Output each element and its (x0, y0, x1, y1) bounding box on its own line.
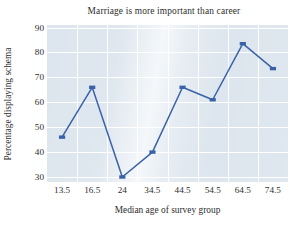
data-point-marker (179, 86, 185, 89)
data-point-marker (89, 86, 95, 89)
chart-title: Marriage is more important than career (38, 6, 290, 16)
chart-figure: Marriage is more important than career P… (0, 0, 303, 232)
y-tick-label: 50 (4, 122, 44, 132)
y-tick-label: 40 (4, 147, 44, 157)
x-tick-label: 74.5 (253, 185, 293, 195)
y-tick-label: 80 (4, 47, 44, 57)
y-tick-label: 90 (4, 23, 44, 33)
data-point-marker (270, 67, 276, 70)
y-tick-label: 60 (4, 97, 44, 107)
data-point-marker (149, 150, 155, 153)
data-line (62, 44, 273, 177)
data-point-marker (240, 42, 246, 45)
x-axis-label: Median age of survey group (47, 205, 288, 215)
y-tick-label: 70 (4, 72, 44, 82)
y-axis-tick-labels: 30405060708090 (2, 25, 44, 182)
data-series-layer (47, 25, 288, 182)
plot-area (47, 25, 288, 182)
y-tick-label: 30 (4, 172, 44, 182)
data-point-marker (210, 98, 216, 101)
data-point-marker (119, 175, 125, 178)
x-axis-tick-labels: 13.516.52434.544.554.564.574.5 (47, 185, 288, 199)
data-point-marker (59, 135, 65, 138)
